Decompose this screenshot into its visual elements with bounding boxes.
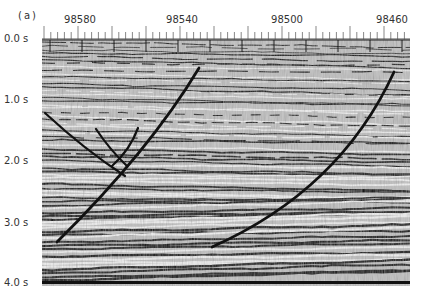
seismic-section <box>0 0 425 307</box>
bottom-base-line <box>42 281 410 284</box>
top-trace-header <box>42 24 410 40</box>
